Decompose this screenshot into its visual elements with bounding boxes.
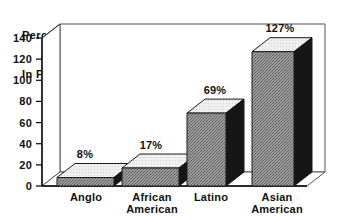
value-label-anglo: 8% — [60, 148, 110, 160]
value-label-african-american: 17% — [126, 139, 176, 151]
y-tick-label-40: 40 — [0, 138, 32, 150]
y-tick-label-0: 0 — [0, 180, 32, 192]
category-label-latino: Latino — [177, 191, 245, 203]
y-tick-label-60: 60 — [0, 117, 32, 129]
value-label-asian-american: 127% — [252, 22, 308, 34]
y-tick-label-80: 80 — [0, 95, 32, 107]
bar-chart: Percent Growth In Population — [0, 0, 342, 220]
bar-african-american — [122, 154, 197, 186]
y-tick-label-120: 120 — [0, 53, 32, 65]
bar-asian-american — [252, 38, 312, 186]
bar-latino — [187, 99, 244, 186]
category-label-asian-american-line-2: American — [239, 203, 315, 215]
category-label-african-american-line-2: American — [114, 203, 190, 215]
value-label-latino: 69% — [190, 84, 240, 96]
y-tick-label-140: 140 — [0, 32, 32, 44]
y-tick-label-100: 100 — [0, 74, 32, 86]
category-label-asian-american: Asian American — [239, 191, 315, 215]
y-axis-ticks — [36, 38, 42, 186]
category-label-anglo: Anglo — [52, 191, 120, 203]
category-label-latino-line-1: Latino — [177, 191, 245, 203]
category-label-anglo-line-1: Anglo — [52, 191, 120, 203]
category-label-asian-american-line-1: Asian — [239, 191, 315, 203]
y-tick-label-20: 20 — [0, 159, 32, 171]
